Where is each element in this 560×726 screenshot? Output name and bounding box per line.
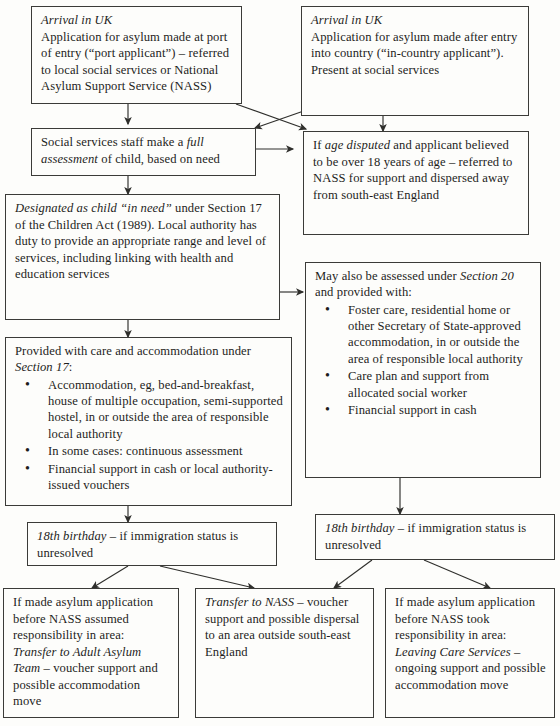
connector-birthday-right-to-leaving-care <box>424 560 490 588</box>
node-18th-birthday-right-emph: 18th birthday <box>325 521 395 535</box>
node-arrival-in-country[interactable]: Arrival in UK Application for asylum mad… <box>301 6 529 116</box>
node-section-20-tail: and provided with: <box>315 285 412 299</box>
connector-port-to-agedisputed <box>236 104 306 129</box>
connector-birthday-left-to-nass <box>160 566 254 588</box>
node-section-17[interactable]: Provided with care and accommodation und… <box>5 337 292 506</box>
node-18th-birthday-left[interactable]: 18th birthday – if immigration status is… <box>27 522 277 566</box>
node-full-assessment-lead: Social services staff make a <box>41 135 187 149</box>
node-leaving-care-emph: Leaving Care Services <box>395 645 511 659</box>
node-age-disputed-emph: age disputed <box>325 138 390 152</box>
node-transfer-to-nass[interactable]: Transfer to NASS – voucher support and p… <box>195 588 374 718</box>
node-arrival-in-country-heading: Arrival in UK <box>311 12 521 29</box>
node-adult-asylum-team-lead: If made asylum application before NASS a… <box>13 595 153 642</box>
node-age-disputed[interactable]: If age disputed and applicant believed t… <box>303 131 529 235</box>
node-section-17-lead: Provided with care and accommodation und… <box>15 344 251 358</box>
node-child-in-need[interactable]: Designated as child “in need” under Sect… <box>5 194 280 320</box>
node-section-20-emph: Section 20 <box>460 269 514 283</box>
node-section-17-emph: Section 17 <box>15 360 69 374</box>
list-item: In some cases: continuous assessment <box>15 443 284 459</box>
node-section-20-bullet-list: Foster care, residential home or other S… <box>315 302 533 419</box>
node-section-20-lead: May also be assessed under <box>315 269 460 283</box>
node-child-in-need-emph: Designated as child “in need” <box>15 201 172 215</box>
connector-birthday-left-to-adult-team <box>92 566 128 588</box>
list-item: Financial support in cash or local autho… <box>15 461 284 494</box>
list-item: Foster care, residential home or other S… <box>315 302 533 367</box>
node-section-20[interactable]: May also be assessed under Section 20 an… <box>305 262 541 478</box>
node-section-17-tail: : <box>69 360 73 374</box>
node-arrival-port-heading: Arrival in UK <box>41 12 234 29</box>
node-transfer-to-nass-emph: Transfer to NASS <box>205 595 294 609</box>
node-leaving-care-services[interactable]: If made asylum application before NASS t… <box>385 588 555 718</box>
list-item: Care plan and support from allocated soc… <box>315 368 533 401</box>
node-arrival-port[interactable]: Arrival in UK Application for asylum mad… <box>31 6 242 104</box>
node-arrival-in-country-body: Application for asylum made after entry … <box>311 29 521 79</box>
node-leaving-care-lead: If made asylum application before NASS t… <box>395 595 535 642</box>
node-arrival-port-body: Application for asylum made at port of e… <box>41 29 234 95</box>
node-18th-birthday-left-emph: 18th birthday <box>37 529 107 543</box>
flowchart-canvas: Arrival in UK Application for asylum mad… <box>0 0 560 726</box>
list-item: Accommodation, eg, bed-and-breakfast, ho… <box>15 377 284 442</box>
node-section-17-bullet-list: Accommodation, eg, bed-and-breakfast, ho… <box>15 377 284 494</box>
node-full-assessment-tail: of child, based on need <box>98 152 220 166</box>
node-adult-asylum-team[interactable]: If made asylum application before NASS a… <box>3 588 179 718</box>
node-age-disputed-lead: If <box>313 138 325 152</box>
node-18th-birthday-right[interactable]: 18th birthday – if immigration status is… <box>315 514 555 560</box>
list-item: Financial support in cash <box>315 402 533 418</box>
node-full-assessment[interactable]: Social services staff make a full assess… <box>31 128 256 176</box>
connector-birthday-right-to-nass <box>334 560 372 588</box>
